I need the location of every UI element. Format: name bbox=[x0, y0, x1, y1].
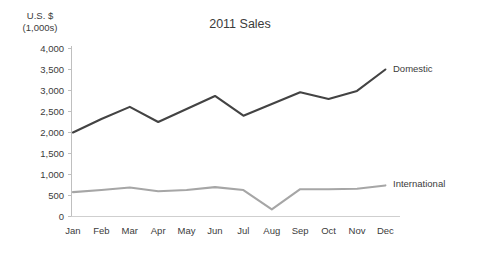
y-tick-label: 500 bbox=[18, 190, 64, 201]
y-tick-label: 3,000 bbox=[18, 85, 64, 96]
series-label-domestic: Domestic bbox=[393, 63, 433, 74]
chart-plot-area bbox=[0, 0, 478, 254]
y-tick-label: 3,500 bbox=[18, 64, 64, 75]
y-tick-label: 2,500 bbox=[18, 106, 64, 117]
y-tick-label: 0 bbox=[18, 211, 64, 222]
y-tick-label: 1,000 bbox=[18, 169, 64, 180]
axis-lines bbox=[72, 46, 401, 217]
y-tick-label: 2,000 bbox=[18, 127, 64, 138]
series-line-international bbox=[73, 185, 385, 209]
y-tick-label: 1,500 bbox=[18, 148, 64, 159]
series-label-international: International bbox=[393, 178, 445, 189]
sales-line-chart: 2011 Sales U.S. $ (1,000s) 05001,0001,50… bbox=[0, 0, 478, 254]
y-tick-label: 4,000 bbox=[18, 43, 64, 54]
y-axis-ticks bbox=[68, 49, 72, 217]
x-tick-label: Dec bbox=[368, 225, 402, 236]
series-line-domestic bbox=[73, 70, 385, 133]
